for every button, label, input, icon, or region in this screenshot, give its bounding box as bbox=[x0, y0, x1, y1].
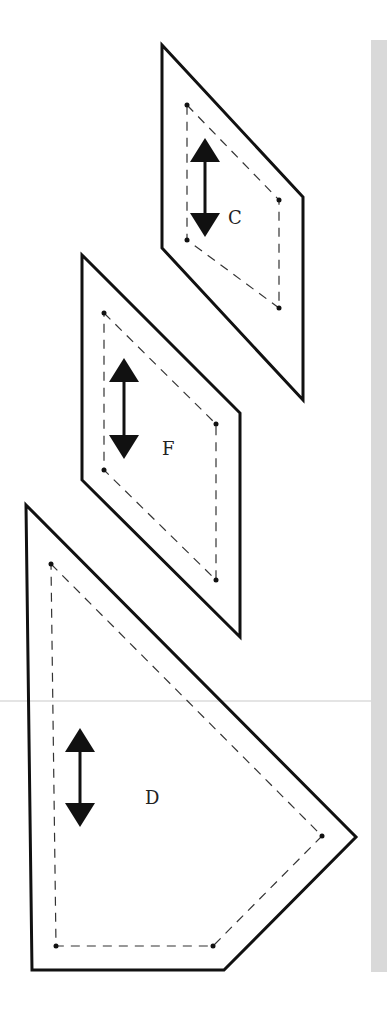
pattern-diagram: C F D bbox=[0, 0, 387, 1011]
piece-f-seamline bbox=[104, 313, 216, 580]
piece-c: C bbox=[162, 45, 303, 400]
piece-label-c: C bbox=[228, 207, 242, 228]
piece-label-d: D bbox=[145, 787, 159, 808]
piece-d-seamline bbox=[51, 564, 322, 946]
piece-d-outline bbox=[26, 505, 356, 970]
piece-f: F bbox=[82, 255, 240, 637]
piece-d-corner-dots bbox=[49, 562, 325, 949]
piece-f-corner-dots bbox=[102, 311, 219, 583]
piece-label-f: F bbox=[162, 438, 175, 459]
piece-d: D bbox=[26, 505, 356, 970]
